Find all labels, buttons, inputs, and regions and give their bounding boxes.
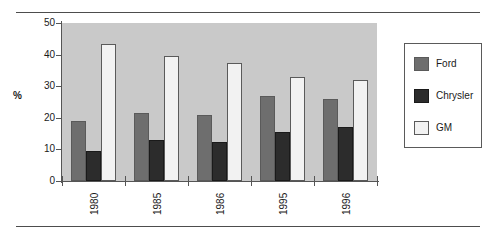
y-axis-label: % (13, 91, 22, 101)
legend-item-chrysler: Chrysler (414, 89, 473, 103)
x-tick-mark (377, 176, 378, 186)
bar-chrysler-1980 (86, 151, 101, 181)
y-tick-mark (56, 86, 62, 87)
legend-swatch-ford (414, 57, 429, 71)
y-tick-label: 0 (31, 176, 55, 186)
y-tick-label: 30 (31, 81, 55, 91)
x-tick-label: 1995 (279, 193, 289, 215)
bar-gm-1995 (290, 77, 305, 181)
bar-gm-1996 (353, 80, 368, 181)
x-axis-line (57, 181, 379, 182)
bar-chrysler-1986 (212, 142, 227, 182)
bar-gm-1985 (164, 56, 179, 181)
legend-item-ford: Ford (414, 57, 457, 71)
bar-ford-1986 (197, 115, 212, 181)
x-tick-mark (314, 176, 315, 186)
y-tick-mark (56, 118, 62, 119)
bar-chrysler-1995 (275, 132, 290, 181)
bar-ford-1996 (323, 99, 338, 181)
x-tick-label: 1980 (90, 193, 100, 215)
chart-legend: Ford Chrysler GM (404, 43, 482, 148)
y-tick-label: 40 (31, 50, 55, 60)
legend-swatch-chrysler (414, 89, 429, 103)
x-tick-mark (62, 176, 63, 186)
x-tick-mark (251, 176, 252, 186)
y-tick-mark (56, 149, 62, 150)
bottom-divider-rule (16, 226, 480, 227)
x-tick-mark (125, 176, 126, 186)
y-axis-line (61, 21, 62, 183)
bar-gm-1986 (227, 63, 242, 182)
legend-label-chrysler: Chrysler (436, 91, 473, 101)
legend-label-gm: GM (436, 123, 452, 133)
x-tick-label: 1985 (153, 193, 163, 215)
y-tick-label: 20 (31, 113, 55, 123)
legend-item-gm: GM (414, 121, 452, 135)
bar-ford-1995 (260, 96, 275, 181)
top-divider-rule (16, 12, 480, 13)
y-tick-label: 50 (31, 18, 55, 28)
y-tick-label: 10 (31, 144, 55, 154)
y-tick-mark (56, 55, 62, 56)
x-tick-label: 1996 (342, 193, 352, 215)
bar-chrysler-1985 (149, 140, 164, 181)
y-tick-mark (56, 23, 62, 24)
x-tick-mark (188, 176, 189, 186)
bar-chart-figure: % 50403020100 19801985198619951996 Ford … (0, 0, 492, 237)
legend-label-ford: Ford (436, 59, 457, 69)
legend-swatch-gm (414, 121, 429, 135)
bar-chrysler-1996 (338, 127, 353, 181)
bar-ford-1985 (134, 113, 149, 181)
bar-ford-1980 (71, 121, 86, 181)
bar-gm-1980 (101, 44, 116, 181)
x-tick-label: 1986 (216, 193, 226, 215)
